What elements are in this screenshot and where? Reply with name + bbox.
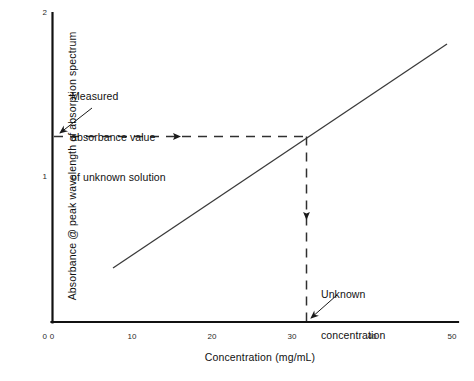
x-tick-label-50: 50: [437, 332, 467, 341]
x-tick-label-0: 0: [37, 332, 67, 341]
unknown-concentration-annotation: Unknown concentration: [321, 261, 385, 369]
measured-annotation-line-2: absorbance value: [71, 131, 166, 145]
y-tick-label-1: 1: [27, 172, 47, 181]
unknown-annotation-line-2: concentration: [321, 329, 385, 343]
x-tick-label-10: 10: [117, 332, 147, 341]
measured-annotation-line-1: Measured: [71, 90, 166, 104]
x-axis-title: Concentration (mg/mL): [60, 351, 460, 363]
measured-annotation-line-3: of unknown solution: [71, 171, 166, 185]
x-tick-label-30: 30: [277, 332, 307, 341]
y-tick-label-2: 2: [27, 8, 47, 17]
unknown-annotation-line-1: Unknown: [321, 288, 385, 302]
calibration-curve-chart: 2 1 0 0 10 20 30 40 50 Absorbance @ peak…: [0, 0, 474, 381]
x-tick-label-20: 20: [197, 332, 227, 341]
measured-absorbance-annotation: Measured absorbance value of unknown sol…: [71, 63, 166, 212]
